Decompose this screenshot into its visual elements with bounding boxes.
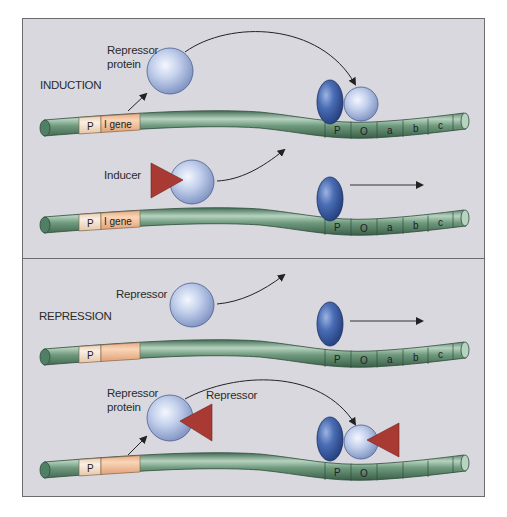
operon-diagram: P I gene P O a b c P I gene P O a b c P … [0, 0, 507, 517]
svg-text:O: O [360, 126, 368, 137]
repressor-protein-bound [344, 87, 378, 121]
arrow-gene-to-repressor [128, 437, 146, 455]
svg-text:b: b [413, 123, 419, 134]
rna-polymerase [317, 302, 343, 346]
rna-polymerase [317, 80, 343, 124]
svg-text:P: P [87, 463, 94, 474]
arrow-igene-to-repressor [128, 94, 146, 111]
svg-text:c: c [438, 349, 443, 360]
svg-text:a: a [387, 222, 393, 233]
svg-text:I gene: I gene [104, 119, 132, 130]
rna-polymerase [317, 177, 343, 221]
rna-polymerase [317, 417, 343, 461]
arrow-repressor-release [217, 275, 284, 304]
svg-text:a: a [387, 354, 393, 365]
svg-text:P: P [334, 354, 341, 365]
label-inducer: Inducer [104, 168, 141, 182]
svg-text:P: P [334, 222, 341, 233]
induction-row-2 [40, 177, 469, 236]
svg-text:P: P [334, 125, 341, 136]
svg-text:P: P [87, 121, 94, 132]
repression-row-2 [40, 417, 469, 481]
svg-text:P: P [87, 350, 94, 361]
svg-text:P: P [87, 218, 94, 229]
label-repressor-protein-2: Repressor protein [107, 386, 158, 414]
label-repressor-protein: Repressor protein [107, 43, 158, 71]
repressor-gene-segment [101, 456, 140, 475]
svg-text:c: c [438, 217, 443, 228]
arrow-repressor-to-operator [185, 32, 355, 84]
repressor-gene-segment [101, 343, 140, 362]
repressor-inactive [170, 283, 214, 327]
svg-text:P: P [334, 467, 341, 478]
label-corepressor: Repressor [206, 388, 257, 402]
svg-text:O: O [360, 355, 368, 366]
svg-text:O: O [360, 223, 368, 234]
svg-text:b: b [413, 220, 419, 231]
svg-text:b: b [413, 352, 419, 363]
arrow-complex-release [217, 150, 284, 181]
svg-text:a: a [387, 125, 393, 136]
svg-text:I gene: I gene [104, 216, 132, 227]
label-repressor: Repressor [116, 287, 167, 301]
svg-text:O: O [360, 468, 368, 479]
section-title-induction: INDUCTION [40, 79, 101, 91]
section-title-repression: REPRESSION [39, 310, 111, 322]
svg-text:c: c [438, 120, 443, 131]
